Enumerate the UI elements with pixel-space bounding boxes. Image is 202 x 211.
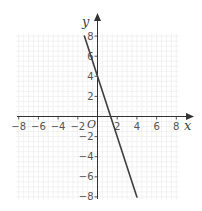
y-tick-label: −2: [79, 131, 94, 142]
y-tick-label: 8: [87, 31, 93, 42]
x-tick-label: −4: [51, 121, 66, 132]
x-tick-label: 4: [134, 121, 140, 132]
y-tick-label: −4: [79, 151, 94, 162]
y-tick-label: −8: [79, 191, 94, 202]
y-tick-label: 2: [87, 91, 93, 102]
x-tick-label: −6: [31, 121, 46, 132]
x-axis-label: x: [184, 118, 192, 133]
x-tick-label: 6: [153, 121, 159, 132]
y-axis-arrow-icon: [94, 13, 101, 21]
x-tick-label: −2: [70, 121, 85, 132]
y-tick-label: −6: [79, 171, 94, 182]
coordinate-plane: −8−6−4−224688642−2−4−6−8 x y O: [0, 0, 202, 211]
y-axis-label: y: [81, 14, 90, 29]
x-tick-label: 8: [173, 121, 179, 132]
y-tick-label: 4: [87, 71, 93, 82]
origin-label: O: [87, 118, 96, 131]
x-tick-label: −8: [11, 121, 26, 132]
